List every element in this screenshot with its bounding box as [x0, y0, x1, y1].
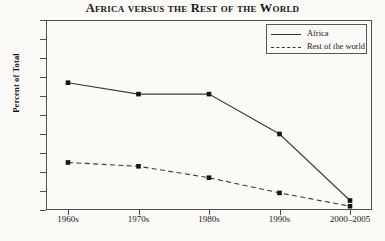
y-tick-mark: [40, 210, 46, 211]
y-tick-mark: [40, 96, 46, 97]
x-tick-label: 1990s: [245, 214, 315, 224]
y-tick-mark: [40, 39, 46, 40]
y-axis-title: Percent of Total: [11, 35, 21, 131]
y-tick-mark: [40, 20, 46, 21]
y-tick-mark: [40, 172, 46, 173]
legend-line-swatch: [270, 30, 302, 38]
chart-title: Africa versus the Rest of the World: [0, 1, 385, 16]
y-tick-mark: [40, 153, 46, 154]
y-tick-mark: [40, 134, 46, 135]
y-tick-mark: [40, 58, 46, 59]
x-tick-label: 1980s: [174, 214, 244, 224]
legend-item: Africa: [270, 27, 363, 40]
legend-label: Africa: [307, 29, 328, 38]
y-tick-mark: [40, 191, 46, 192]
chart-page: Africa versus the Rest of the World Perc…: [0, 0, 385, 241]
chart-legend: AfricaRest of the world: [266, 24, 367, 54]
x-tick-label: 1960s: [33, 214, 103, 224]
x-tick-label: 1970s: [104, 214, 174, 224]
y-tick-mark: [40, 115, 46, 116]
legend-item: Rest of the world: [270, 40, 363, 53]
legend-label: Rest of the world: [307, 42, 365, 51]
y-tick-mark: [40, 77, 46, 78]
x-tick-label: 2000–2005: [315, 214, 385, 224]
legend-line-swatch: [270, 43, 302, 51]
